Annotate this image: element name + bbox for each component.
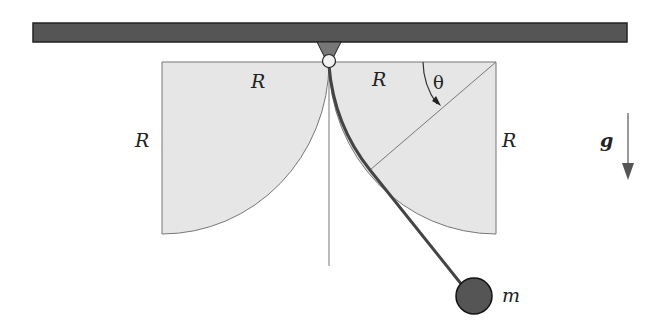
gravity-arrowhead-icon [622, 163, 634, 180]
pendulum-diagram: R R R R θ g m [0, 0, 668, 331]
label-radius-left-top: R [250, 70, 265, 92]
label-angle: θ [433, 72, 444, 93]
ceiling-bar [33, 23, 627, 42]
pendulum-bob [456, 278, 492, 314]
label-gravity: g [600, 129, 613, 151]
label-radius-left-side: R [134, 129, 149, 151]
label-radius-right-side: R [501, 129, 516, 151]
label-radius-right-top: R [371, 68, 386, 90]
left-cheek [162, 62, 329, 234]
pivot-pin [323, 55, 336, 68]
label-mass: m [502, 284, 520, 306]
